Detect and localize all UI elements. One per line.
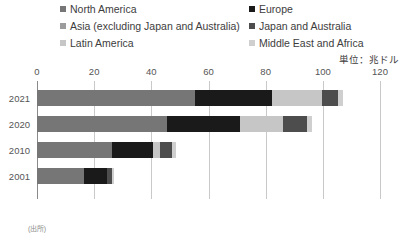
bar-segment[interactable]	[37, 90, 195, 106]
plot-area: 020406080100120 2021202020102001	[0, 66, 405, 211]
legend-swatch-icon	[249, 6, 255, 12]
stacked-bar-chart: North AmericaAsia (excluding Japan and A…	[0, 0, 405, 233]
legend-item[interactable]: Latin America	[60, 36, 240, 52]
bar-row: 2021	[0, 85, 405, 111]
legend-item-label: Middle East and Africa	[259, 36, 363, 50]
x-axis-tick-label: 100	[315, 66, 331, 77]
bar-segment[interactable]	[37, 142, 112, 158]
bar-segment[interactable]	[338, 90, 343, 106]
legend-item-label: Asia (excluding Japan and Australia)	[70, 19, 240, 33]
bar-segment[interactable]	[112, 142, 153, 158]
bar-segment[interactable]	[84, 168, 107, 184]
legend-swatch-icon	[249, 23, 255, 29]
bar-segment[interactable]	[167, 116, 240, 132]
legend-item[interactable]: North America	[60, 2, 240, 18]
bar-row: 2010	[0, 137, 405, 163]
bar-segment[interactable]	[307, 116, 312, 132]
bar-segment[interactable]	[37, 168, 84, 184]
y-axis-category-label: 2010	[0, 137, 34, 163]
bar-segment[interactable]	[112, 168, 114, 184]
legend-swatch-icon	[60, 40, 66, 46]
legend-item-label: Japan and Australia	[259, 19, 351, 33]
bar-segment[interactable]	[240, 116, 283, 132]
legend-item-label: Latin America	[70, 36, 134, 50]
stacked-bar[interactable]	[37, 142, 176, 158]
legend-swatch-icon	[249, 40, 255, 46]
unit-note: 単位：兆ドル	[339, 52, 399, 66]
bar-segment[interactable]	[272, 90, 322, 106]
bar-row: 2020	[0, 111, 405, 137]
legend-item[interactable]: Japan and Australia	[249, 19, 363, 35]
x-axis-tick-label: 80	[260, 66, 271, 77]
bar-segment[interactable]	[172, 142, 176, 158]
stacked-bar[interactable]	[37, 168, 114, 184]
legend-item[interactable]: Middle East and Africa	[249, 36, 363, 52]
stacked-bar[interactable]	[37, 116, 312, 132]
stacked-bar[interactable]	[37, 90, 343, 106]
legend-swatch-icon	[60, 6, 66, 12]
x-axis-tick-label: 40	[146, 66, 157, 77]
y-axis-category-label: 2020	[0, 111, 34, 137]
legend-column-left: North AmericaAsia (excluding Japan and A…	[60, 2, 240, 53]
y-axis-category-label: 2021	[0, 85, 34, 111]
legend-swatch-icon	[60, 23, 66, 29]
y-axis-category-label: 2001	[0, 163, 34, 189]
chart-legend: North AmericaAsia (excluding Japan and A…	[0, 0, 405, 52]
legend-item-label: North America	[70, 2, 137, 16]
bar-segment[interactable]	[153, 142, 161, 158]
bar-segment[interactable]	[37, 116, 167, 132]
x-axis-tick-label: 20	[89, 66, 100, 77]
bar-segment[interactable]	[160, 142, 172, 158]
bar-segment[interactable]	[322, 90, 338, 106]
bar-segment[interactable]	[283, 116, 307, 132]
x-axis-tick-labels: 020406080100120	[0, 66, 405, 80]
chart-footnote: (出所)	[28, 223, 46, 233]
x-axis-tick-label: 60	[203, 66, 214, 77]
bar-series-area: 2021202020102001	[0, 81, 405, 199]
legend-column-right: EuropeJapan and AustraliaMiddle East and…	[249, 2, 363, 53]
legend-item[interactable]: Europe	[249, 2, 363, 18]
bar-segment[interactable]	[195, 90, 272, 106]
legend-item-label: Europe	[259, 2, 293, 16]
bar-row: 2001	[0, 163, 405, 189]
x-axis-tick-label: 120	[372, 66, 388, 77]
x-axis-tick-label: 0	[34, 66, 39, 77]
legend-item[interactable]: Asia (excluding Japan and Australia)	[60, 19, 240, 35]
